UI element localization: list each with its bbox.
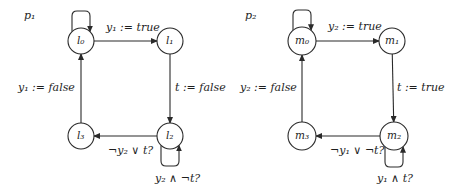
transition-label: ¬y₁ ∨ ¬t? [330, 145, 384, 156]
transition-label: ¬y₂ ∨ t? [108, 145, 153, 156]
self-loop-label: y₁ ∧ t? [377, 173, 413, 184]
process-label: p₂ [245, 10, 256, 21]
transition-label: t := false [175, 82, 226, 93]
state-machine-diagram [0, 0, 458, 192]
nodes-layer [68, 27, 408, 150]
state-label: m₃ [295, 130, 309, 141]
state-label: m₂ [387, 130, 401, 141]
state-label: l₀ [77, 35, 85, 46]
state-label: l₂ [166, 130, 174, 141]
transition-label: y₂ := true [328, 21, 382, 32]
state-label: l₃ [77, 130, 85, 141]
transition-label: t := true [397, 82, 445, 93]
state-label: l₁ [166, 35, 174, 46]
transition-label: y₁ := false [18, 82, 75, 93]
transition-label: y₂ := false [240, 82, 297, 93]
state-label: m₁ [385, 35, 399, 46]
diagram-canvas: p₁y₁ := truet := false¬y₂ ∨ t?y₁ := fals… [0, 0, 458, 192]
self-loop-label: y₂ ∧ ¬t? [155, 173, 200, 184]
process-label: p₁ [24, 10, 35, 21]
state-label: m₀ [295, 35, 309, 46]
transition-label: y₁ := true [106, 22, 160, 33]
transition-m1-m2 [392, 54, 393, 122]
